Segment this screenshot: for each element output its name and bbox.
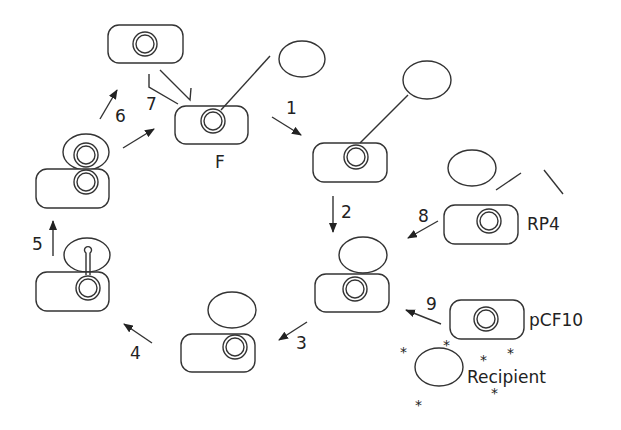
step-label-5: 5 [32,234,43,254]
step-label-4: 4 [130,343,141,363]
step-label-8: 8 [418,206,429,226]
recipient-cell-pheromone [415,348,463,386]
step-label-7: 7 [146,94,157,114]
step-label-9: 9 [426,294,437,314]
arrow-step-7 [123,129,154,148]
conjugation-cycle-diagram: 1 2 3 4 5 6 7 8 9 F RP4 pCF10 Recipient … [0,0,621,430]
step-label-3: 3 [296,333,307,353]
mating-pair-2 [315,237,389,312]
mating-pair-3 [181,292,256,372]
plasmid-label-f: F [215,152,225,172]
pheromone-star: * [415,397,422,413]
transfer-cell-4 [36,238,110,311]
pilus-attached-cell [313,95,408,182]
pheromone-star: * [400,344,407,360]
pcf10-cell [450,300,524,339]
replicated-pair-5 [36,134,109,208]
step-label-1: 1 [286,98,297,118]
recipient-cell-2 [403,61,451,99]
pheromone-star: * [443,337,450,353]
pheromone-star: * [507,345,514,361]
step-label-6: 6 [115,106,126,126]
step-label-2: 2 [341,202,352,222]
arrow-step-4 [124,324,152,343]
plasmid-label-pcf10: pCF10 [529,310,583,330]
arrow-step-1 [272,117,301,135]
recipient-cell-1 [279,41,325,77]
plasmid-label-rp4: RP4 [527,214,560,234]
donor-cell-top [108,25,183,63]
pheromone-star: * [491,385,498,401]
pheromone-star: * [480,352,487,368]
recipient-label: Recipient [467,367,546,387]
